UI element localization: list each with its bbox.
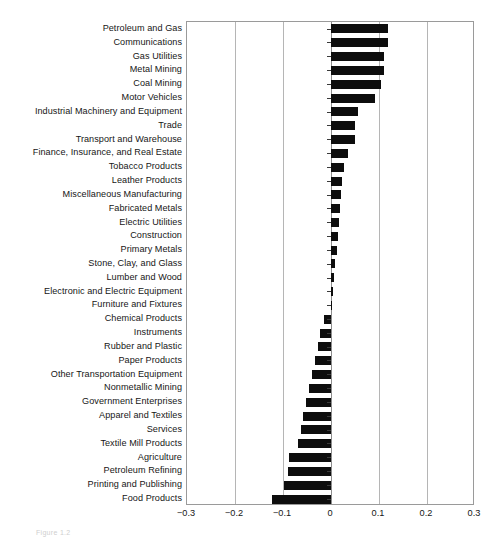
bar-row [187,91,473,105]
axis-tick [327,457,331,458]
bar [331,121,355,130]
category-label: Electronic and Electric Equipment [0,286,182,296]
category-label: Lumber and Wood [0,272,182,282]
bar [331,287,333,296]
category-label: Furniture and Fixtures [0,299,182,309]
x-tick-label: 0.1 [372,508,385,519]
bar [331,94,375,103]
category-label: Miscellaneous Manufacturing [0,189,182,199]
bar-row [187,188,473,202]
bar [331,135,355,144]
category-label: Communications [0,37,182,47]
bar-row [187,354,473,368]
axis-tick [327,264,331,265]
axis-tick [327,319,331,320]
bar [331,190,341,199]
bar-row [187,202,473,216]
category-label: Petroleum Refining [0,465,182,475]
bar [331,80,381,89]
category-axis-labels: Petroleum and GasCommunicationsGas Utili… [0,21,182,505]
axis-tick [327,347,331,348]
x-tick-label: 0.3 [468,508,481,519]
axis-tick [327,499,331,500]
category-label: Food Products [0,493,182,503]
axis-tick [327,402,331,403]
bar [331,246,337,255]
bar-row [187,312,473,326]
axis-tick [327,29,331,30]
category-label: Transport and Warehouse [0,134,182,144]
axis-tick [327,471,331,472]
axis-tick [327,388,331,389]
figure-caption: Figure 1.2 [36,528,71,537]
category-label: Other Transportation Equipment [0,369,182,379]
axis-tick [327,250,331,251]
axis-tick [327,278,331,279]
bar-row [187,160,473,174]
category-label: Metal Mining [0,64,182,74]
category-label: Electric Utilities [0,217,182,227]
bar-row [187,437,473,451]
axis-tick [327,360,331,361]
bar-row [187,340,473,354]
bar-row [187,77,473,91]
bar-row [187,50,473,64]
bar-row [187,368,473,382]
category-label: Petroleum and Gas [0,23,182,33]
bar-row [187,146,473,160]
bar-row [187,451,473,465]
bar-rows [187,22,473,504]
bar-row [187,423,473,437]
bar-row [187,63,473,77]
bar-row [187,36,473,50]
category-label: Gas Utilities [0,51,182,61]
axis-tick [327,153,331,154]
category-label: Finance, Insurance, and Real Estate [0,147,182,157]
bar [284,481,331,490]
bar-row [187,395,473,409]
axis-tick [327,195,331,196]
category-label: Printing and Publishing [0,479,182,489]
axis-tick [327,430,331,431]
bar [331,232,338,241]
bar-row [187,119,473,133]
bar [331,107,358,116]
category-label: Motor Vehicles [0,92,182,102]
category-label: Government Enterprises [0,396,182,406]
bar-row [187,382,473,396]
axis-tick [327,42,331,43]
axis-tick [327,56,331,57]
bar-row [187,326,473,340]
bar [331,301,332,310]
bar-row [187,478,473,492]
bar-row [187,285,473,299]
category-label: Agriculture [0,452,182,462]
category-label: Tobacco Products [0,161,182,171]
axis-tick [327,167,331,168]
category-label: Textile Mill Products [0,438,182,448]
axis-tick [327,333,331,334]
x-tick-label: 0 [327,508,332,519]
bar [272,495,331,504]
bar [331,259,335,268]
bar-row [187,465,473,479]
axis-tick [327,112,331,113]
axis-tick [327,236,331,237]
bar-row [187,174,473,188]
category-label: Industrial Machinery and Equipment [0,106,182,116]
bar-chart: Petroleum and GasCommunicationsGas Utili… [0,0,497,541]
bar-row [187,229,473,243]
category-label: Apparel and Textiles [0,410,182,420]
bar [331,218,339,227]
category-label: Coal Mining [0,78,182,88]
bar-row [187,22,473,36]
bar [288,467,331,476]
axis-tick [327,208,331,209]
x-tick-label: −0.1 [273,508,291,519]
bar-row [187,409,473,423]
x-tick-label: −0.2 [225,508,243,519]
axis-tick [327,416,331,417]
x-axis-tick-labels: −0.3−0.2−0.100.10.20.3 [0,508,497,524]
bar-row [187,216,473,230]
category-label: Primary Metals [0,244,182,254]
